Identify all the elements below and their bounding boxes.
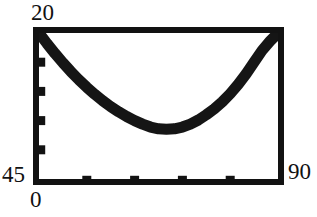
data-series-curve <box>39 33 278 129</box>
y-axis-min-label: 45 <box>2 163 25 186</box>
x-axis-ticks <box>87 176 230 179</box>
x-axis-min-label: 0 <box>30 188 42 211</box>
y-axis-ticks <box>39 62 45 150</box>
y-axis-max-label: 20 <box>31 1 54 24</box>
plot-frame <box>33 27 284 185</box>
x-axis-max-label: 90 <box>288 160 311 183</box>
chart-figure: 20 45 0 90 <box>0 0 317 217</box>
plot-area <box>39 33 278 179</box>
plot-canvas <box>39 33 278 179</box>
